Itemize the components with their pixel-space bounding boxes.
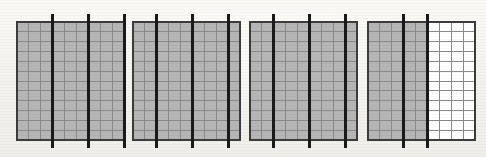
grid-panels-figure: Four rectangular grid panels crossed by …: [0, 0, 486, 157]
panel-1: [17, 22, 124, 140]
panel-group: [17, 22, 475, 140]
panel-2: [133, 22, 240, 140]
panel-3: [250, 22, 357, 140]
panel-4: [368, 22, 475, 140]
